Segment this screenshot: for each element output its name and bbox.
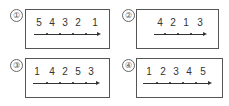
option-marker: ④ bbox=[122, 59, 135, 72]
tick-mark bbox=[177, 33, 179, 35]
arrow-right-icon bbox=[97, 32, 101, 36]
sequence-number: 4 bbox=[47, 66, 57, 77]
sequence-number: 5 bbox=[73, 66, 83, 77]
sequence-number: 3 bbox=[195, 17, 205, 28]
sequence-number: 1 bbox=[181, 17, 191, 28]
tick-mark bbox=[46, 82, 48, 84]
tick-mark bbox=[59, 33, 61, 35]
tick-mark bbox=[190, 33, 192, 35]
sequence-number: 2 bbox=[168, 17, 178, 28]
sequence-number: 2 bbox=[73, 17, 83, 28]
sequence-number: 3 bbox=[60, 17, 70, 28]
tick-mark bbox=[164, 33, 166, 35]
tick-mark bbox=[72, 82, 74, 84]
tick-mark bbox=[182, 82, 184, 84]
tick-mark bbox=[169, 82, 171, 84]
option-box: 1 4 2 5 3 bbox=[25, 58, 110, 98]
arrow-right-icon bbox=[96, 81, 100, 85]
option-marker: ③ bbox=[10, 59, 23, 72]
sequence-number: 3 bbox=[86, 66, 96, 77]
number-line bbox=[154, 34, 204, 35]
number-line bbox=[34, 34, 98, 35]
tick-mark bbox=[46, 33, 48, 35]
sequence-number: 1 bbox=[144, 66, 154, 77]
sequence-number: 2 bbox=[158, 66, 168, 77]
arrow-right-icon bbox=[203, 32, 207, 36]
option-box: 4 2 1 3 bbox=[136, 9, 219, 49]
sequence-number: 5 bbox=[198, 66, 208, 77]
sequence-number: 3 bbox=[171, 66, 181, 77]
tick-mark bbox=[59, 82, 61, 84]
sequence-number: 4 bbox=[155, 17, 165, 28]
tick-mark bbox=[195, 82, 197, 84]
option-box: 1 2 3 4 5 bbox=[136, 58, 223, 98]
sequence-number: 2 bbox=[60, 66, 70, 77]
number-line bbox=[143, 83, 209, 84]
tick-mark bbox=[85, 82, 87, 84]
arrow-right-icon bbox=[208, 81, 212, 85]
sequence-number: 4 bbox=[47, 17, 57, 28]
sequence-number: 5 bbox=[34, 17, 44, 28]
sequence-number: 4 bbox=[184, 66, 194, 77]
option-marker: ① bbox=[10, 9, 23, 22]
option-box: 5 4 3 2 1 bbox=[25, 9, 110, 49]
tick-mark bbox=[72, 33, 74, 35]
option-marker: ② bbox=[122, 9, 135, 22]
tick-mark bbox=[156, 82, 158, 84]
sequence-number: 1 bbox=[32, 66, 42, 77]
sequence-number: 1 bbox=[90, 17, 100, 28]
tick-mark bbox=[85, 33, 87, 35]
number-line bbox=[33, 83, 97, 84]
